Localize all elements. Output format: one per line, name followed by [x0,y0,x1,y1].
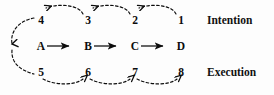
intention-row-label: Intention [207,14,252,26]
intention-arc-2-to-3 [93,5,130,14]
execution-arc-7-to-8 [137,79,177,84]
intention-step-3: 3 [80,14,96,26]
execution-arc-5-to-6 [43,79,83,84]
middle-node-a: A [33,40,49,52]
intention-arc-3-to-4 [46,5,83,14]
intention-step-2: 2 [127,14,143,26]
execution-step-6: 6 [80,66,96,78]
diagram-canvas: 4 3 2 1 A B C D 5 6 7 8 Intention Execut… [0,0,274,95]
execution-row-label: Execution [207,66,256,78]
execution-step-8: 8 [173,66,189,78]
execution-step-5: 5 [33,66,49,78]
execution-arc-6-to-7 [90,79,130,84]
middle-node-c: C [127,40,143,52]
execution-step-7: 7 [127,66,143,78]
intention-step-4: 4 [33,14,49,26]
middle-node-d: D [173,40,189,52]
middle-node-b: B [80,40,96,52]
left-connector-curve [12,18,34,74]
intention-step-1: 1 [173,14,189,26]
intention-arc-1-to-2 [139,5,176,14]
